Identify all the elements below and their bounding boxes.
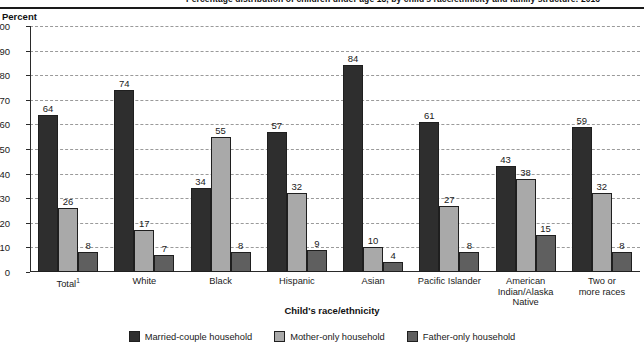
bar-value-label: 59 [577, 115, 588, 126]
bar[interactable] [612, 252, 632, 272]
bar-slot: 27 [439, 26, 459, 272]
bar-slot: 64 [38, 26, 58, 272]
bar[interactable] [307, 250, 327, 272]
plot-area: 6426874177345585732984104612784338155932… [30, 26, 640, 272]
bar-slot: 4 [383, 26, 403, 272]
x-axis-category-label: Total1 [30, 276, 106, 308]
bar-group: 64268 [30, 26, 106, 272]
bar[interactable] [154, 255, 174, 272]
x-axis-category-label: Asian [335, 276, 411, 308]
bar-value-label: 17 [139, 218, 150, 229]
bar-group-bars: 84104 [335, 26, 411, 272]
bar-value-label: 7 [162, 243, 167, 254]
bar-group: 59328 [564, 26, 640, 272]
y-axis-tick-label: 10 [0, 242, 10, 253]
bar[interactable] [363, 247, 383, 272]
bar-group: 84104 [335, 26, 411, 272]
y-axis-tick [26, 272, 30, 273]
bar-value-label: 10 [368, 235, 379, 246]
x-axis-title: Child's race/ethnicity [0, 305, 644, 316]
bar-value-label: 4 [390, 250, 395, 261]
bar[interactable] [459, 252, 479, 272]
bar[interactable] [516, 179, 536, 272]
bar[interactable] [78, 252, 98, 272]
bar-value-label: 34 [195, 176, 206, 187]
bar-group-bars: 61278 [411, 26, 487, 272]
category-label-line: Total1 [30, 276, 106, 290]
bar-slot: 15 [536, 26, 556, 272]
bar-slot: 9 [307, 26, 327, 272]
bar[interactable] [114, 90, 134, 272]
legend-item[interactable]: Father-only household [407, 331, 516, 342]
bar-slot: 59 [572, 26, 592, 272]
legend-label: Mother-only household [290, 332, 385, 342]
y-axis-tick-label: 20 [0, 217, 10, 228]
bar-slot: 38 [516, 26, 536, 272]
bar-slot: 8 [78, 26, 98, 272]
bar-value-label: 43 [500, 154, 511, 165]
footnote-marker: 1 [76, 277, 80, 284]
x-axis-category-labels: Total1WhiteBlackHispanicAsianPacific Isl… [30, 276, 640, 308]
category-label-line: Two or [564, 276, 640, 287]
legend-item[interactable]: Mother-only household [274, 331, 385, 342]
bar[interactable] [231, 252, 251, 272]
bar-slot: 8 [459, 26, 479, 272]
bar-group: 57329 [259, 26, 335, 272]
bar-group-bars: 433815 [488, 26, 564, 272]
legend-item[interactable]: Married-couple household [129, 331, 253, 342]
bar[interactable] [572, 127, 592, 272]
bar[interactable] [343, 65, 363, 272]
bar-slot: 8 [612, 26, 632, 272]
legend-label: Father-only household [423, 332, 516, 342]
bar-slot: 10 [363, 26, 383, 272]
bar-group-bars: 74177 [106, 26, 182, 272]
bar[interactable] [439, 206, 459, 272]
x-axis-category-label: White [106, 276, 182, 308]
bar-group-bars: 34558 [183, 26, 259, 272]
category-label-line: Indian/Alaska [488, 287, 564, 298]
bar-value-label: 55 [215, 125, 226, 136]
bar-slot: 74 [114, 26, 134, 272]
x-axis-category-label: AmericanIndian/AlaskaNative [488, 276, 564, 308]
bar[interactable] [419, 122, 439, 272]
bar-group-bars: 57329 [259, 26, 335, 272]
bar-value-label: 64 [43, 103, 54, 114]
bar-slot: 8 [231, 26, 251, 272]
bar-slot: 7 [154, 26, 174, 272]
category-label-line: American [488, 276, 564, 287]
x-axis-category-label: Pacific Islander [411, 276, 487, 308]
category-label-line: White [106, 276, 182, 287]
y-axis-tick-label: 0 [0, 267, 10, 278]
bar[interactable] [211, 137, 231, 272]
x-axis-category-label: Two ormore races [564, 276, 640, 308]
title-divider [0, 7, 644, 9]
bar[interactable] [383, 262, 403, 272]
bar[interactable] [536, 235, 556, 272]
bar-slot: 32 [592, 26, 612, 272]
bar-value-label: 57 [272, 120, 283, 131]
chart-legend: Married-couple householdMother-only hous… [0, 331, 644, 342]
bar[interactable] [134, 230, 154, 272]
x-axis-category-label: Black [183, 276, 259, 308]
bar[interactable] [191, 188, 211, 272]
bar[interactable] [287, 193, 307, 272]
bar[interactable] [267, 132, 287, 272]
bar[interactable] [58, 208, 78, 272]
category-label-line: Asian [335, 276, 411, 287]
bar-slot: 57 [267, 26, 287, 272]
bar-groups: 6426874177345585732984104612784338155932… [30, 26, 640, 272]
bar-slot: 26 [58, 26, 78, 272]
bar[interactable] [38, 115, 58, 272]
bar-slot: 55 [211, 26, 231, 272]
bar[interactable] [592, 193, 612, 272]
bar[interactable] [496, 166, 516, 272]
category-label-line: Black [183, 276, 259, 287]
y-axis-tick-label: 90 [0, 45, 10, 56]
y-axis-tick-label: 50 [0, 144, 10, 155]
legend-swatch [129, 331, 140, 342]
bar-group: 74177 [106, 26, 182, 272]
chart-title: Percentage distribution of children unde… [186, 0, 600, 4]
x-axis-category-label: Hispanic [259, 276, 335, 308]
bar-value-label: 8 [85, 240, 90, 251]
y-axis-tick-label: 60 [0, 119, 10, 130]
